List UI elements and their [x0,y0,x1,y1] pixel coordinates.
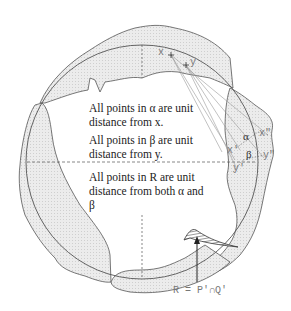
note-R-line2: distance from both α and [89,184,204,198]
label-x: x [158,47,164,58]
label-y-double-prime: y″ [263,150,275,161]
note-alpha-line2: distance from x. [89,115,193,129]
diagram-canvas: All points in α are unit distance from x… [0,0,291,311]
note-beta-line1: All points in β are unit [89,133,193,147]
label-x-prime: x′ [227,145,239,156]
note-R-line3: β [89,198,204,212]
label-y: y [190,57,196,68]
note-beta-line2: distance from y. [89,147,193,161]
equation-R: R = P′∩Q′ [173,285,227,296]
note-alpha-line1: All points in α are unit [89,101,193,115]
label-y-prime: y′ [233,163,245,174]
label-alpha: α [243,130,249,142]
top-region [40,25,233,103]
note-R-line1: All points in R are unit [89,170,204,184]
label-x-double-prime: x″ [259,128,271,139]
label-beta: β [246,148,252,160]
